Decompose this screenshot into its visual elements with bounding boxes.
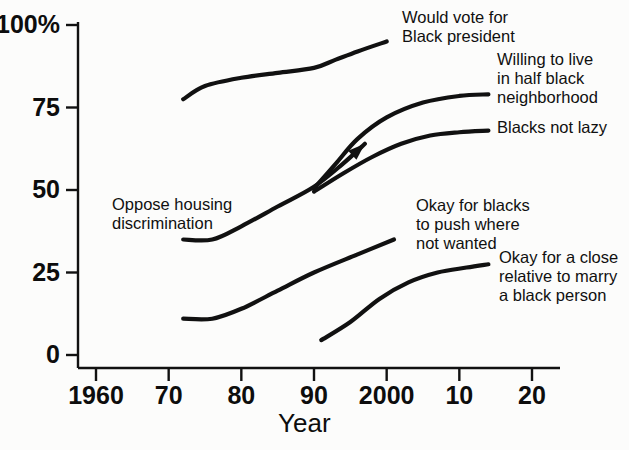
series-line bbox=[321, 264, 488, 340]
series-label: Okay for blacks to push where not wanted bbox=[416, 196, 530, 253]
y-tick-label: 100% bbox=[0, 12, 60, 37]
x-axis-title: Year bbox=[278, 408, 331, 439]
y-tick-label: 0 bbox=[46, 342, 60, 367]
series-line bbox=[183, 42, 386, 100]
series-line bbox=[183, 240, 394, 320]
series-label: Willing to live in half black neighborho… bbox=[497, 50, 598, 107]
series-label: Okay for a close relative to marry a bla… bbox=[499, 248, 618, 305]
chart-container: 100%7550250 196070809020001020 Would vot… bbox=[0, 0, 629, 450]
series-label: Oppose housing discrimination bbox=[112, 195, 232, 233]
series-label: Would vote for Black president bbox=[402, 8, 515, 46]
data-series-lines bbox=[183, 42, 488, 341]
y-tick-label: 75 bbox=[32, 95, 60, 120]
x-axis-ticks bbox=[96, 368, 532, 381]
x-tick-label: 20 bbox=[472, 383, 592, 408]
y-tick-label: 50 bbox=[32, 177, 60, 202]
y-tick-label: 25 bbox=[32, 260, 60, 285]
y-axis-ticks bbox=[66, 25, 78, 355]
series-label: Blacks not lazy bbox=[497, 118, 607, 137]
